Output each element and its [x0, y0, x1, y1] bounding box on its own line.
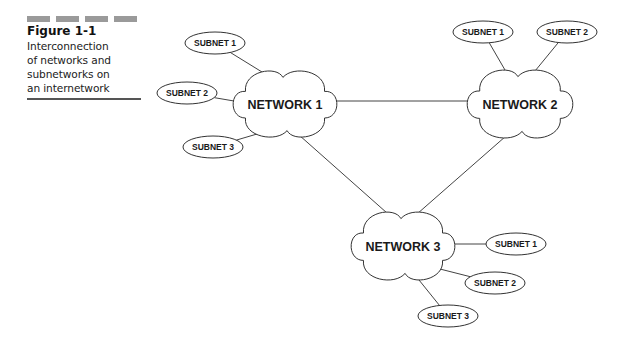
- subnet-label: SUBNET 2: [166, 88, 208, 98]
- subnet-node: SUBNET 3: [183, 136, 243, 158]
- network-label: NETWORK 3: [366, 240, 441, 254]
- subnet-node: SUBNET 3: [418, 305, 478, 327]
- network-diagram: NETWORK 1NETWORK 2NETWORK 3SUBNET 1SUBNE…: [0, 0, 624, 344]
- subnet-label: SUBNET 2: [546, 27, 588, 37]
- subnet-link: [214, 98, 234, 101]
- subnet-label: SUBNET 3: [427, 311, 469, 321]
- network-link-net1-net3: [299, 135, 387, 213]
- subnet-node: SUBNET 1: [486, 233, 546, 255]
- subnet-node: SUBNET 2: [157, 82, 217, 104]
- subnet-node: SUBNET 1: [185, 32, 245, 54]
- subnet-label: SUBNET 1: [495, 239, 537, 249]
- subnet-label: SUBNET 1: [462, 27, 504, 37]
- subnet-node: SUBNET 2: [537, 21, 597, 43]
- subnet-label: SUBNET 3: [192, 142, 234, 152]
- network-link-net2-net3: [417, 136, 506, 214]
- nodes-layer: NETWORK 1NETWORK 2NETWORK 3SUBNET 1SUBNE…: [157, 21, 597, 327]
- network-node: NETWORK 2: [467, 70, 573, 138]
- subnet-node: SUBNET 1: [453, 21, 513, 43]
- network-label: NETWORK 1: [248, 98, 323, 112]
- subnet-link: [535, 43, 558, 71]
- subnet-link: [489, 43, 505, 70]
- subnet-link: [230, 52, 262, 72]
- subnet-label: SUBNET 1: [194, 38, 236, 48]
- subnet-link: [419, 280, 440, 305]
- network-node: NETWORK 1: [233, 71, 337, 137]
- subnet-node: SUBNET 2: [465, 272, 525, 294]
- network-node: NETWORK 3: [351, 212, 455, 280]
- subnet-link: [236, 134, 257, 140]
- subnet-label: SUBNET 2: [474, 278, 516, 288]
- network-label: NETWORK 2: [483, 98, 558, 112]
